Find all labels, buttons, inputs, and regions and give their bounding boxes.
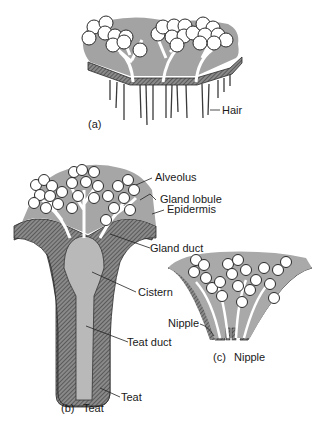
label-teat: Teat (121, 391, 142, 403)
label-epidermis: Epidermis (167, 203, 216, 215)
title-nipple: Nipple (234, 351, 265, 363)
label-hair: Hair (222, 104, 243, 116)
label-alveolus: Alveolus (155, 171, 197, 183)
panel-a-skin-gland: Hair (a) (82, 16, 243, 130)
title-teat: Teat (83, 402, 104, 414)
mammary-gland-diagram: Hair (a) (0, 0, 329, 429)
label-cistern: Cistern (138, 286, 173, 298)
label-teat-duct: Teat duct (127, 336, 172, 348)
caption-c: (c) (213, 351, 226, 363)
panel-c-nipple: Nipple (c) Nipple (168, 252, 312, 363)
caption-b: (b) (61, 402, 74, 414)
label-nipple: Nipple (168, 317, 199, 329)
caption-a: (a) (88, 118, 101, 130)
label-gland-duct: Gland duct (150, 242, 203, 254)
